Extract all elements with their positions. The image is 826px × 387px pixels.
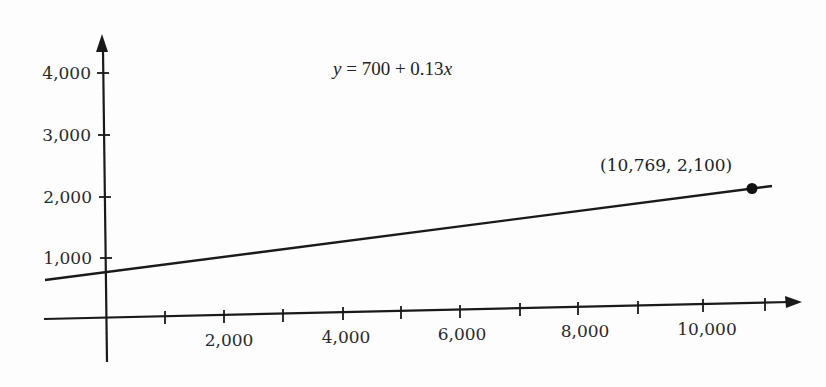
y-tick-label: 4,000: [42, 63, 91, 83]
x-tick-label: 6,000: [438, 324, 487, 344]
chart: 2,000 4,000 6,000 8,000 10,000 1,000 2,0…: [0, 0, 826, 387]
y-axis: 1,000 2,000 3,000 4,000: [42, 34, 112, 362]
x-tick-label: 4,000: [322, 327, 371, 347]
y-tick-label: 3,000: [42, 125, 91, 145]
y-tick-label: 2,000: [43, 187, 92, 207]
equation-y: y: [331, 58, 342, 79]
x-axis-ticks: [165, 298, 765, 324]
equation-x: x: [443, 58, 453, 79]
data-point-marker: [747, 183, 758, 194]
x-axis-arrow-icon: [785, 296, 802, 308]
equation-label: y = 700 + 0.13x: [331, 58, 453, 79]
trend-line: [45, 186, 772, 280]
y-axis-arrow-icon: [96, 34, 108, 52]
point-label: (10,769, 2,100): [600, 155, 732, 175]
y-tick-label: 1,000: [43, 248, 92, 268]
x-axis: 2,000 4,000 6,000 8,000 10,000: [44, 296, 802, 350]
x-tick-label: 2,000: [205, 330, 254, 350]
equation-body: = 700 + 0.13: [341, 58, 443, 79]
x-tick-label: 8,000: [561, 321, 610, 341]
x-tick-label: 10,000: [677, 319, 736, 339]
